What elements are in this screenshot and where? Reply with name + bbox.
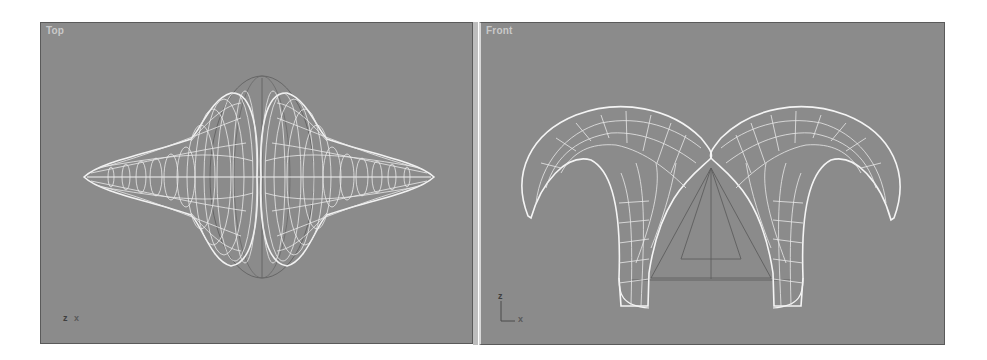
axis-label-x: x: [74, 313, 79, 323]
axis-tripod-icon: [501, 301, 515, 321]
viewport-divider[interactable]: [473, 22, 478, 345]
axis-label-x: x: [518, 314, 523, 324]
top-view-wireframe: [41, 23, 473, 344]
top-viewport[interactable]: Top: [40, 22, 473, 344]
axis-label-z: z: [498, 291, 503, 301]
axis-label-z: z: [63, 313, 68, 323]
front-view-wireframe: [481, 23, 945, 345]
front-viewport[interactable]: Front: [479, 22, 945, 345]
